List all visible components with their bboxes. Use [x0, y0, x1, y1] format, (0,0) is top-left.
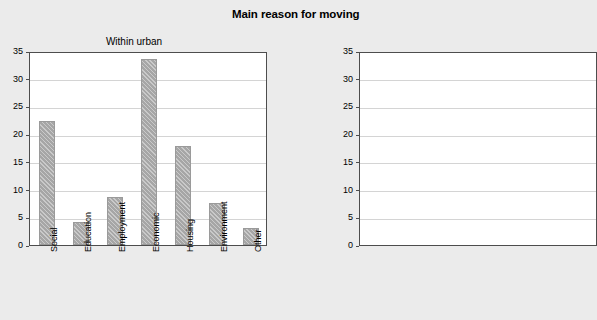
y-tick-label: 15	[330, 158, 353, 167]
y-tick-label: 0	[330, 241, 353, 250]
y-tick-label: 10	[0, 186, 23, 195]
chart-title-within-urban: Within urban	[0, 36, 268, 47]
figure-title: Main reason for moving	[232, 8, 360, 20]
chart-panel-cropped: 05101520253035	[330, 36, 450, 320]
x-tick-label-housing: Housing	[186, 219, 195, 252]
x-tick-label-economic: Economic	[152, 212, 161, 252]
gridline	[360, 219, 596, 220]
y-tick-label: 10	[330, 186, 353, 195]
x-tick-label-social: Social	[50, 227, 59, 252]
gridline	[360, 191, 596, 192]
y-tick-label: 20	[0, 130, 23, 139]
x-tick-label-education: Education	[84, 212, 93, 252]
gridline	[360, 108, 596, 109]
y-tick-label: 30	[330, 75, 353, 84]
y-tick-label: 0	[0, 241, 23, 250]
y-tick-label: 25	[0, 102, 23, 111]
gridline	[360, 163, 596, 164]
plot-area-cropped	[359, 52, 597, 246]
y-tick-label: 30	[0, 75, 23, 84]
y-tick-label: 25	[330, 102, 353, 111]
bar-social	[39, 121, 54, 245]
y-tick-label: 35	[0, 47, 23, 56]
x-tick-label-other: Other	[254, 229, 263, 252]
y-tick-label: 15	[0, 158, 23, 167]
x-tick-label-employment: Employment	[118, 202, 127, 252]
y-tick-label: 5	[0, 213, 23, 222]
y-tick-label: 5	[330, 213, 353, 222]
y-tick-label: 35	[330, 47, 353, 56]
chart-panel-within-urban: Within urban 05101520253035 SocialEducat…	[0, 36, 290, 320]
gridline	[360, 80, 596, 81]
y-tick-label: 20	[330, 130, 353, 139]
gridline	[360, 136, 596, 137]
plot-area-within-urban	[29, 52, 267, 246]
x-tick-label-environment: Environment	[220, 201, 229, 252]
